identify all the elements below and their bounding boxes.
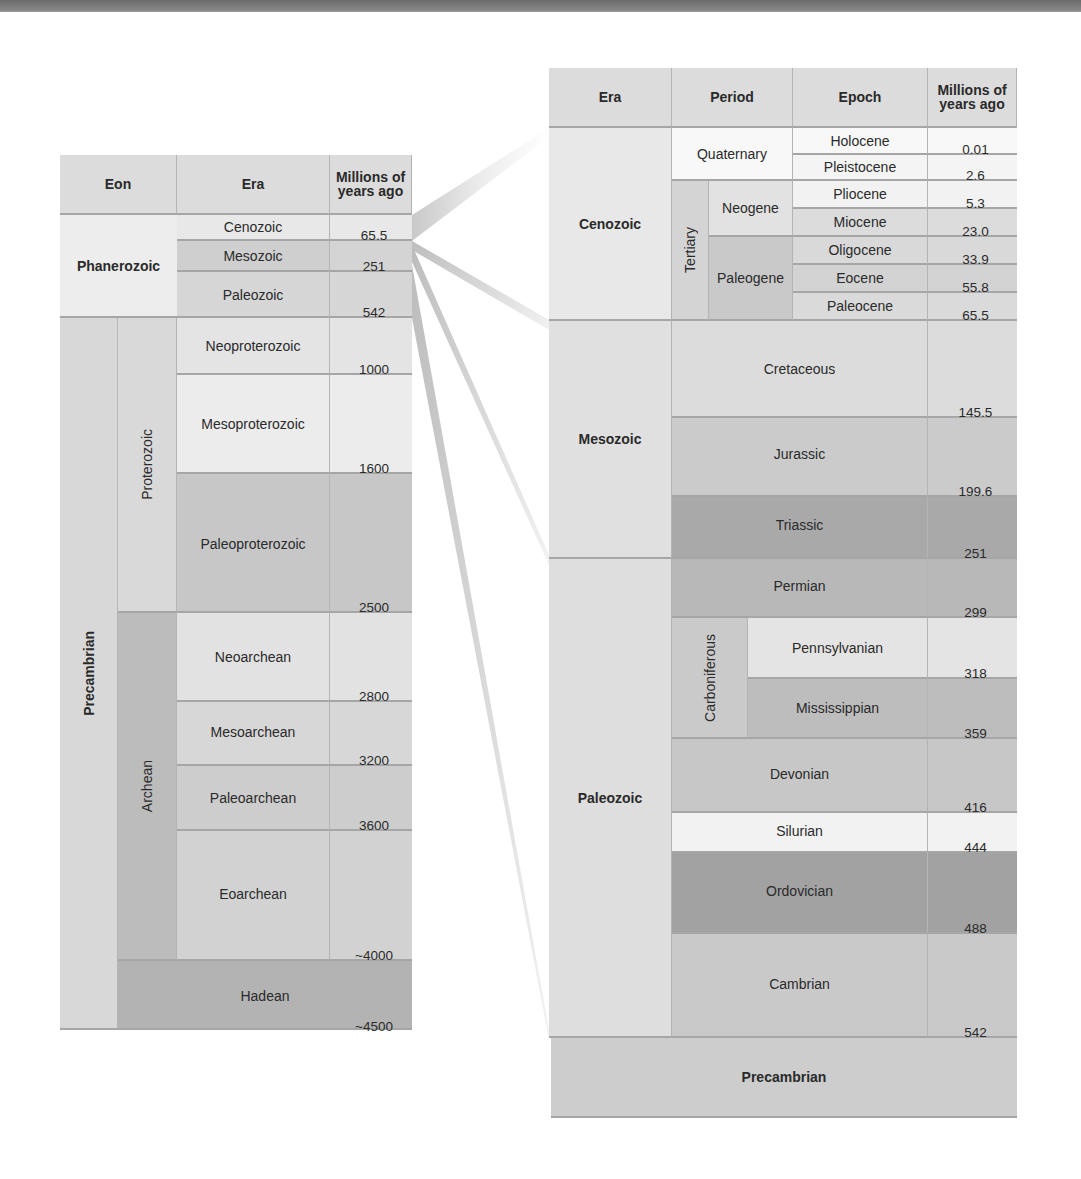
- mya-cell: 416: [928, 739, 1017, 813]
- mya-cell: 55.8: [928, 265, 1017, 293]
- mya-cell: 444: [928, 813, 1017, 853]
- mya-cell: 1000: [330, 318, 412, 375]
- period-permian: Permian: [672, 559, 928, 618]
- header-eon: Eon: [60, 155, 177, 215]
- mya-cell: ~4500: [330, 961, 412, 1030]
- header-period: Period: [672, 68, 793, 128]
- mya-cell: 488: [928, 853, 1017, 934]
- mya-cell: 299: [928, 559, 1017, 618]
- period-devonian: Devonian: [672, 739, 928, 813]
- mya-cell: 5.3: [928, 181, 1017, 209]
- period-cambrian: Cambrian: [672, 934, 928, 1038]
- era-mesoarchean: Mesoarchean: [177, 702, 330, 766]
- subperiod-pennsylvanian: Pennsylvanian: [748, 618, 928, 679]
- mya-cell: 33.9: [928, 237, 1017, 265]
- era-paleozoic: Paleozoic: [549, 559, 672, 1038]
- eon-precambrian-label: Precambrian: [81, 631, 97, 716]
- header-era: Era: [549, 68, 672, 128]
- eon-precambrian: Precambrian: [60, 318, 118, 1030]
- period-quaternary: Quaternary: [672, 128, 793, 181]
- period-cretaceous: Cretaceous: [672, 321, 928, 418]
- mya-cell: 199.6: [928, 418, 1017, 497]
- eon-archean-label: Archean: [139, 760, 155, 812]
- subperiod-paleogene: Paleogene: [709, 237, 793, 321]
- header-mya: Millions of years ago: [928, 68, 1017, 128]
- epoch-pliocene: Pliocene: [793, 181, 928, 209]
- mya-cell: 2.6: [928, 155, 1017, 181]
- mya-cell: 23.0: [928, 209, 1017, 237]
- mya-cell: 3600: [330, 766, 412, 831]
- era-neoproterozoic: Neoproterozoic: [177, 318, 330, 375]
- mya-cell: 3200: [330, 702, 412, 766]
- mya-cell: 542: [928, 934, 1017, 1038]
- epoch-holocene: Holocene: [793, 128, 928, 155]
- era-cenozoic: Cenozoic: [177, 215, 330, 241]
- mya-cell: 251: [330, 241, 412, 272]
- period-carboniferous-label: Carboniferous: [702, 634, 718, 722]
- period-jurassic: Jurassic: [672, 418, 928, 497]
- mya-cell: 0.01: [928, 128, 1017, 155]
- period-silurian: Silurian: [672, 813, 928, 853]
- epoch-paleocene: Paleocene: [793, 293, 928, 321]
- mya-value: ~4500: [330, 1019, 412, 1034]
- epoch-miocene: Miocene: [793, 209, 928, 237]
- eon-proterozoic: Proterozoic: [118, 318, 177, 613]
- subperiod-mississippian: Mississippian: [748, 679, 928, 739]
- epoch-eocene: Eocene: [793, 265, 928, 293]
- mya-cell: ~4000: [330, 831, 412, 961]
- era-cenozoic: Cenozoic: [549, 128, 672, 321]
- eon-proterozoic-label: Proterozoic: [139, 429, 155, 500]
- header-mya: Millions of years ago: [330, 155, 412, 215]
- mya-cell: 359: [928, 679, 1017, 739]
- mya-cell: 65.5: [330, 215, 412, 241]
- mya-cell: 145.5: [928, 321, 1017, 418]
- mya-cell: 2800: [330, 613, 412, 702]
- era-paleoproterozoic: Paleoproterozoic: [177, 474, 330, 613]
- era-mesoproterozoic: Mesoproterozoic: [177, 375, 330, 474]
- era-paleozoic: Paleozoic: [177, 272, 330, 318]
- precambrian-footer: Precambrian: [551, 1038, 1017, 1118]
- header-era: Era: [177, 155, 330, 215]
- era-mesozoic: Mesozoic: [549, 321, 672, 559]
- period-ordovician: Ordovician: [672, 853, 928, 934]
- era-neoarchean: Neoarchean: [177, 613, 330, 702]
- era-eoarchean: Eoarchean: [177, 831, 330, 961]
- mya-cell: 542: [330, 272, 412, 318]
- header-epoch: Epoch: [793, 68, 928, 128]
- epoch-pleistocene: Pleistocene: [793, 155, 928, 181]
- mya-cell: 251: [928, 497, 1017, 559]
- period-triassic: Triassic: [672, 497, 928, 559]
- mya-cell: 65.5: [928, 293, 1017, 321]
- subperiod-neogene: Neogene: [709, 181, 793, 237]
- mya-cell: 2500: [330, 474, 412, 613]
- period-carboniferous: Carboniferous: [672, 618, 748, 739]
- period-tertiary-label: Tertiary: [682, 227, 698, 273]
- era-paleoarchean: Paleoarchean: [177, 766, 330, 831]
- mya-cell: 318: [928, 618, 1017, 679]
- era-mesozoic: Mesozoic: [177, 241, 330, 272]
- eon-archean: Archean: [118, 613, 177, 961]
- epoch-oligocene: Oligocene: [793, 237, 928, 265]
- period-tertiary: Tertiary: [672, 181, 709, 321]
- eon-phanerozoic: Phanerozoic: [60, 215, 177, 318]
- mya-cell: 1600: [330, 375, 412, 474]
